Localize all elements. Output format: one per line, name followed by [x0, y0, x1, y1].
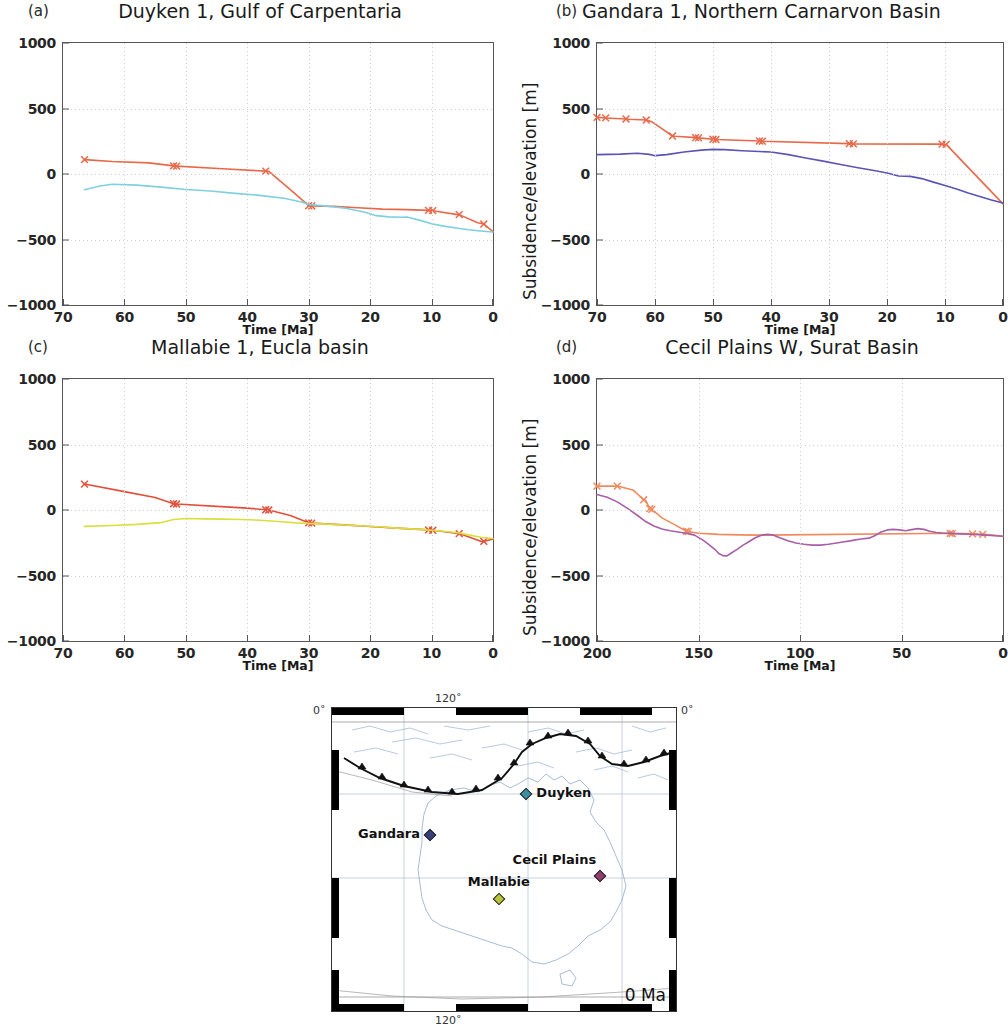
map-site-label-gandara: Gandara — [332, 826, 420, 841]
gridline-horizontal — [63, 240, 493, 241]
panel-d-ylabel: Subsidence/elevation [m] — [520, 419, 540, 636]
y-tick-label: 500 — [562, 437, 597, 453]
map-frame-tick-left — [332, 750, 339, 810]
y-tick-label: 1000 — [552, 35, 597, 51]
map-site-label-duyken: Duyken — [536, 785, 591, 800]
panel-c-title: Mallabie 1, Eucla basin — [60, 336, 460, 358]
y-tick-label: 0 — [581, 166, 597, 182]
gridline-horizontal — [63, 174, 493, 175]
panel-a: (a) Duyken 1, Gulf of Carpentaria 706050… — [0, 0, 504, 336]
y-tick-mark — [597, 510, 603, 511]
y-tick-label: −1000 — [541, 633, 597, 649]
panel-d-curves — [597, 379, 1005, 643]
map-frame-tick-right — [669, 750, 676, 810]
map-site-marker-gandara[interactable] — [424, 829, 437, 842]
series-markers-tectonic-subsidence — [81, 156, 487, 227]
gridline-horizontal — [597, 576, 1003, 577]
panel-d-xlabel: Time [Ma] — [596, 658, 1004, 673]
panel-d-tag: (d) — [556, 338, 577, 356]
y-tick-mark — [63, 108, 69, 109]
panel-d-title: Cecil Plains W, Surat Basin — [582, 336, 1002, 358]
y-tick-mark — [597, 444, 603, 445]
y-tick-label: 0 — [581, 502, 597, 518]
gridline-horizontal — [63, 109, 493, 110]
panel-a-tag: (a) — [28, 2, 49, 20]
y-tick-mark — [63, 305, 69, 306]
panel-a-curves — [63, 43, 495, 307]
y-tick-mark — [63, 510, 69, 511]
map-label-left: 0˚ — [313, 704, 326, 717]
y-tick-mark — [597, 641, 603, 642]
panel-a-plot-area: 70605040302010010005000−500−1000 — [62, 42, 494, 306]
panel-c-plot-area: 70605040302010010005000−500−1000 — [62, 378, 494, 642]
panel-b-tag: (b) — [556, 2, 577, 20]
y-tick-mark — [63, 444, 69, 445]
y-tick-mark — [63, 379, 69, 380]
map-site-overlay: DuykenGandaraCecil PlainsMallabie — [332, 708, 676, 1011]
y-tick-label: −500 — [16, 568, 63, 584]
map-frame-tick-left — [332, 878, 339, 938]
series-markers-tectonic-subsidence — [81, 481, 487, 545]
subsidence-figure: (a) Duyken 1, Gulf of Carpentaria 706050… — [0, 0, 1008, 1030]
gridline-horizontal — [597, 510, 1003, 511]
panel-a-xlabel: Time [Ma] — [62, 322, 494, 337]
map-frame-tick-bottom — [580, 1004, 652, 1011]
map-label-bottom: 120˚ — [435, 1014, 462, 1027]
y-tick-label: −500 — [550, 568, 597, 584]
map-site-marker-mallabie[interactable] — [492, 893, 505, 906]
y-tick-mark — [597, 174, 603, 175]
y-tick-label: −1000 — [541, 297, 597, 313]
y-tick-label: 1000 — [18, 35, 63, 51]
map-frame-tick-left — [332, 970, 339, 1012]
panel-b-plot-area: 70605040302010010005000−500−1000 — [596, 42, 1004, 306]
map-frame-tick-top — [332, 708, 404, 715]
panel-c: (c) Mallabie 1, Eucla basin 706050403020… — [0, 336, 504, 672]
panel-b-xlabel: Time [Ma] — [596, 322, 1004, 337]
map-frame-tick-top — [580, 708, 652, 715]
series-line-backstripped-elevation — [597, 149, 1003, 203]
panel-c-xlabel: Time [Ma] — [62, 658, 494, 673]
panel-a-title: Duyken 1, Gulf of Carpentaria — [60, 0, 460, 22]
y-tick-label: −500 — [550, 232, 597, 248]
y-tick-label: −500 — [16, 232, 63, 248]
map-frame-tick-bottom — [456, 1004, 528, 1011]
y-tick-mark — [63, 43, 69, 44]
y-tick-mark — [597, 43, 603, 44]
panel-b-title: Gandara 1, Northern Carnarvon Basin — [582, 0, 1008, 22]
map-frame-tick-right — [669, 878, 676, 938]
y-tick-label: −1000 — [7, 633, 63, 649]
map-site-label-cecil-plains: Cecil Plains — [332, 852, 596, 867]
panel-b: (b) Gandara 1, Northern Carnarvon Basin … — [504, 0, 1008, 336]
y-tick-mark — [597, 305, 603, 306]
y-tick-mark — [63, 174, 69, 175]
y-tick-label: 500 — [562, 101, 597, 117]
y-tick-label: 0 — [47, 166, 63, 182]
panel-b-ylabel: Subsidence/elevation [m] — [520, 83, 540, 300]
gridline-horizontal — [597, 174, 1003, 175]
panel-b-curves — [597, 43, 1005, 307]
series-line-tectonic-subsidence — [597, 117, 1003, 203]
gridline-horizontal — [63, 510, 493, 511]
y-tick-label: 1000 — [552, 371, 597, 387]
y-tick-label: 1000 — [18, 371, 63, 387]
panel-d: (d) Cecil Plains W, Surat Basin Subsiden… — [504, 336, 1008, 672]
gridline-horizontal — [597, 109, 1003, 110]
gridline-horizontal — [63, 576, 493, 577]
map-frame-tick-right — [669, 970, 676, 1012]
y-tick-mark — [597, 239, 603, 240]
y-tick-label: −1000 — [7, 297, 63, 313]
map-label-right: 0˚ — [681, 704, 694, 717]
y-tick-mark — [597, 379, 603, 380]
gridline-horizontal — [597, 445, 1003, 446]
y-tick-mark — [597, 108, 603, 109]
map-site-marker-duyken[interactable] — [520, 788, 533, 801]
y-tick-label: 500 — [28, 101, 63, 117]
y-tick-mark — [63, 575, 69, 576]
panel-c-curves — [63, 379, 495, 643]
gridline-horizontal — [597, 240, 1003, 241]
y-tick-label: 500 — [28, 437, 63, 453]
y-tick-label: 0 — [47, 502, 63, 518]
location-map: 120˚ 0˚ 0˚ 120˚ DuykenGandaraCecil Plain… — [331, 707, 677, 1012]
map-frame-tick-top — [456, 708, 528, 715]
map-site-label-mallabie: Mallabie — [399, 874, 599, 889]
